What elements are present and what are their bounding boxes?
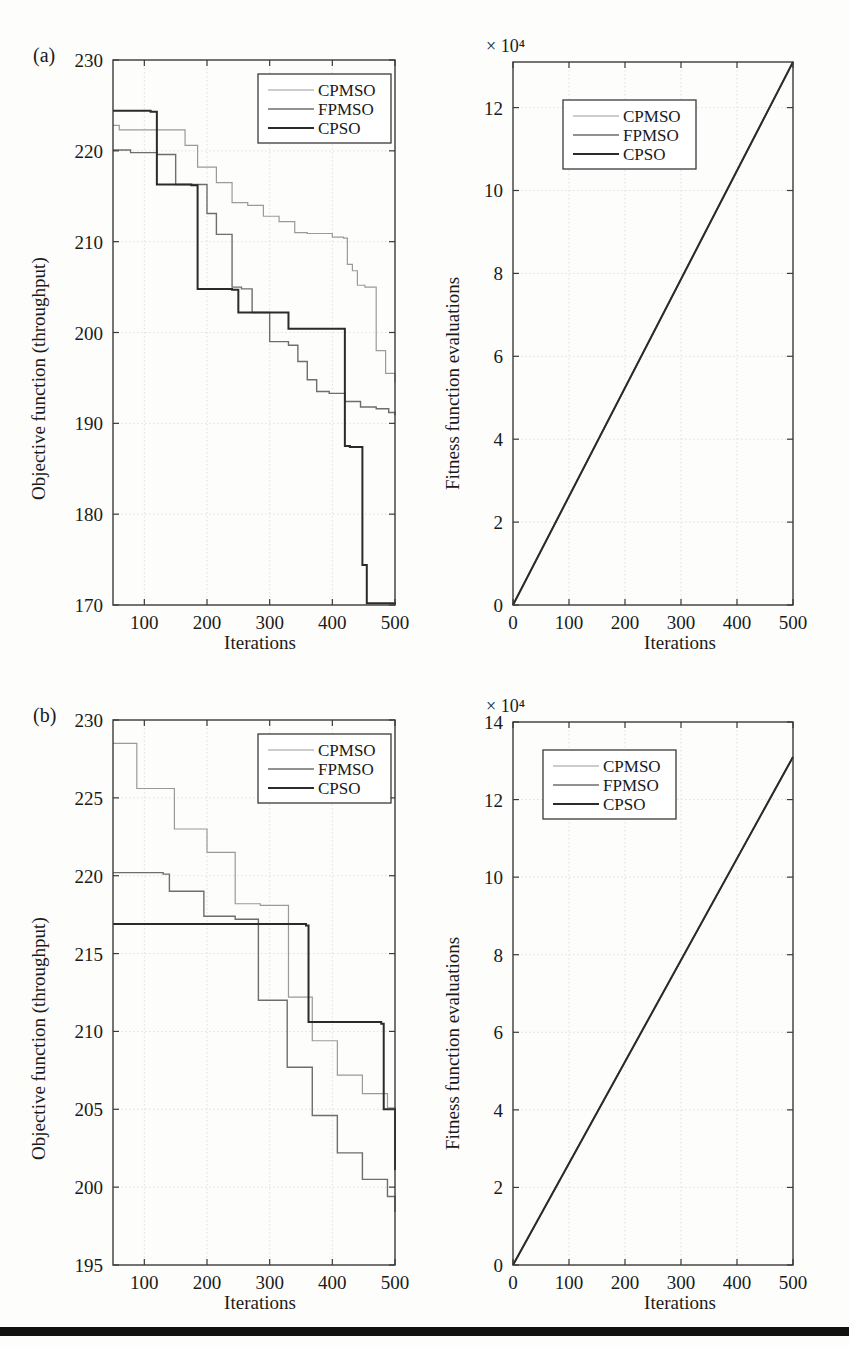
legend-label-fpmso: FPMSO — [603, 776, 659, 795]
panel-a-objective-chart: (a) Objective function (throughput) Iter… — [0, 0, 430, 670]
tick-label-x: 500 — [381, 1272, 410, 1293]
panel-b-objective-svg: 100200300400500195200205210215220225230C… — [0, 660, 430, 1330]
tick-label-y: 195 — [75, 1255, 104, 1276]
tick-label-y: 8 — [494, 263, 504, 284]
tick-label-y: 0 — [494, 595, 504, 616]
tick-label-y: 190 — [75, 413, 104, 434]
tick-label-x: 0 — [508, 612, 518, 633]
tick-label-x: 400 — [318, 1272, 347, 1293]
tick-label-x: 400 — [318, 612, 347, 633]
tick-label-x: 0 — [508, 1272, 518, 1293]
legend: CPMSOFPMSOCPSO — [543, 750, 676, 819]
tick-label-x: 500 — [381, 612, 410, 633]
series-line-cpso — [113, 924, 395, 1170]
panel-b-evaluations-svg: 010020030040050002468101214CPMSOFPMSOCPS… — [420, 660, 849, 1330]
tick-label-y: 200 — [75, 323, 104, 344]
legend-label-cpmso: CPMSO — [318, 741, 376, 760]
tick-label-y: 230 — [75, 710, 104, 731]
legend: CPMSOFPMSOCPSO — [258, 74, 391, 143]
legend-label-fpmso: FPMSO — [318, 760, 374, 779]
panel-b-evaluations-chart: × 10⁴ Fitness function evaluations Itera… — [420, 660, 849, 1330]
tick-label-y: 205 — [75, 1099, 104, 1120]
tick-label-x: 400 — [723, 1272, 752, 1293]
tick-label-y: 220 — [75, 866, 104, 887]
tick-label-y: 225 — [75, 788, 104, 809]
tick-label-y: 0 — [494, 1255, 504, 1276]
figure-page: (a) Objective function (throughput) Iter… — [0, 0, 849, 1349]
series-line-cpso — [113, 111, 395, 605]
tick-label-x: 100 — [130, 1272, 159, 1293]
tick-label-y: 6 — [494, 346, 504, 367]
tick-label-x: 200 — [611, 1272, 640, 1293]
panel-a-objective-svg: 100200300400500170180190200210220230CPMS… — [0, 0, 430, 670]
legend-label-fpmso: FPMSO — [623, 126, 679, 145]
legend-label-cpmso: CPMSO — [603, 757, 661, 776]
tick-label-y: 220 — [75, 141, 104, 162]
tick-label-x: 200 — [193, 1272, 222, 1293]
tick-label-y: 210 — [75, 232, 104, 253]
legend-label-cpso: CPSO — [318, 119, 361, 138]
tick-label-y: 180 — [75, 504, 104, 525]
legend-label-cpmso: CPMSO — [318, 81, 376, 100]
series-line-cpso — [513, 757, 793, 1265]
tick-label-y: 14 — [484, 712, 504, 733]
legend-label-cpso: CPSO — [603, 795, 646, 814]
tick-label-y: 2 — [494, 1177, 504, 1198]
legend: CPMSOFPMSOCPSO — [258, 734, 391, 803]
tick-label-y: 2 — [494, 512, 504, 533]
tick-label-y: 12 — [484, 790, 503, 811]
legend-label-cpso: CPSO — [623, 145, 666, 164]
tick-label-x: 300 — [667, 1272, 696, 1293]
tick-label-y: 230 — [75, 50, 104, 71]
tick-label-x: 100 — [555, 1272, 584, 1293]
tick-label-y: 8 — [494, 945, 504, 966]
tick-label-y: 210 — [75, 1021, 104, 1042]
tick-label-y: 200 — [75, 1177, 104, 1198]
legend: CPMSOFPMSOCPSO — [563, 100, 696, 169]
series-line-fpmso — [113, 150, 395, 415]
tick-label-y: 6 — [494, 1022, 504, 1043]
tick-label-x: 500 — [779, 612, 808, 633]
tick-label-x: 500 — [779, 1272, 808, 1293]
tick-label-y: 4 — [494, 429, 504, 450]
panel-b-objective-chart: (b) Objective function (throughput) Iter… — [0, 660, 430, 1330]
panel-a-evaluations-chart: × 10⁴ Fitness function evaluations Itera… — [420, 0, 849, 670]
legend-label-fpmso: FPMSO — [318, 100, 374, 119]
tick-label-y: 170 — [75, 595, 104, 616]
tick-label-y: 215 — [75, 944, 104, 965]
tick-label-y: 12 — [484, 98, 503, 119]
tick-label-x: 100 — [555, 612, 584, 633]
tick-label-x: 300 — [667, 612, 696, 633]
panel-a-evaluations-svg: 0100200300400500024681012CPMSOFPMSOCPSO — [420, 0, 849, 670]
tick-label-x: 200 — [193, 612, 222, 633]
page-bottom-rule — [0, 1327, 849, 1336]
tick-label-y: 10 — [484, 180, 503, 201]
tick-label-x: 300 — [255, 1272, 284, 1293]
tick-label-x: 100 — [130, 612, 159, 633]
legend-label-cpso: CPSO — [318, 779, 361, 798]
tick-label-y: 4 — [494, 1100, 504, 1121]
tick-label-x: 200 — [611, 612, 640, 633]
tick-label-x: 400 — [723, 612, 752, 633]
tick-label-x: 300 — [255, 612, 284, 633]
legend-label-cpmso: CPMSO — [623, 107, 681, 126]
series-line-cpmso — [113, 125, 395, 382]
tick-label-y: 10 — [484, 867, 503, 888]
